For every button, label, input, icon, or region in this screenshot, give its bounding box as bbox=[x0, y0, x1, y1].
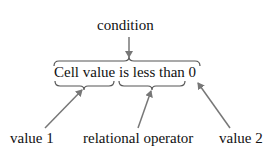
expression-text: Cell value is less than 0 bbox=[54, 65, 196, 80]
value2-arrow bbox=[198, 83, 230, 128]
value1-arrow bbox=[45, 90, 82, 128]
condition-label: condition bbox=[97, 18, 154, 33]
operator-arrow bbox=[138, 91, 151, 128]
operator-brace bbox=[119, 81, 185, 90]
value1-brace bbox=[55, 81, 114, 90]
value2-label: value 2 bbox=[219, 131, 263, 146]
value1-label: value 1 bbox=[10, 131, 54, 146]
operator-label: relational operator bbox=[83, 131, 193, 146]
